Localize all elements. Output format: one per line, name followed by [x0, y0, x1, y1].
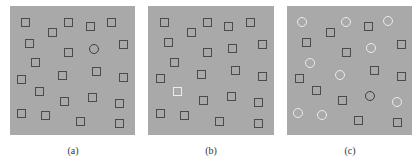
- light-square-icon: [173, 87, 182, 96]
- dark-square-icon: [48, 28, 57, 37]
- dark-square-icon: [60, 97, 69, 106]
- dark-square-icon: [41, 111, 50, 120]
- dark-square-icon: [370, 66, 379, 75]
- light-circle-icon: [305, 58, 315, 68]
- dark-square-icon: [115, 99, 124, 108]
- panel-a: [10, 6, 135, 135]
- dark-square-icon: [31, 58, 40, 67]
- dark-square-icon: [231, 66, 240, 75]
- dark-square-icon: [224, 22, 233, 31]
- light-circle-icon: [297, 17, 307, 27]
- light-circle-icon: [392, 97, 402, 107]
- dark-square-icon: [246, 18, 255, 27]
- light-circle-icon: [383, 16, 393, 26]
- dark-square-icon: [25, 39, 34, 48]
- panel-b: [148, 6, 274, 135]
- dark-square-icon: [86, 22, 95, 31]
- dark-square-icon: [258, 40, 267, 49]
- light-circle-icon: [341, 17, 351, 27]
- light-circle-icon: [366, 43, 376, 53]
- dark-square-icon: [170, 58, 179, 67]
- dark-square-icon: [227, 92, 236, 101]
- dark-square-icon: [326, 28, 335, 37]
- light-circle-icon: [317, 110, 327, 120]
- panel-c: [287, 6, 412, 135]
- light-circle-icon: [293, 108, 303, 118]
- dark-square-icon: [187, 28, 196, 37]
- dark-square-icon: [64, 18, 73, 27]
- dark-square-icon: [92, 67, 101, 76]
- dark-square-icon: [156, 109, 165, 118]
- dark-square-icon: [258, 72, 267, 81]
- dark-square-icon: [115, 119, 124, 128]
- dark-square-icon: [160, 18, 169, 27]
- dark-square-icon: [119, 73, 128, 82]
- dark-square-icon: [17, 109, 26, 118]
- dark-square-icon: [35, 87, 44, 96]
- light-circle-icon: [335, 70, 345, 80]
- dark-square-icon: [199, 96, 208, 105]
- dark-square-icon: [164, 38, 173, 47]
- dark-circle-icon: [365, 91, 375, 101]
- dark-square-icon: [338, 96, 347, 105]
- dark-square-icon: [228, 44, 237, 53]
- dark-square-icon: [17, 75, 26, 84]
- panel-label-c: (c): [330, 145, 370, 156]
- dark-square-icon: [21, 18, 30, 27]
- panel-label-a: (a): [53, 145, 93, 156]
- dark-square-icon: [156, 74, 165, 83]
- dark-square-icon: [354, 116, 363, 125]
- dark-circle-icon: [89, 44, 99, 54]
- dark-square-icon: [302, 38, 311, 47]
- dark-square-icon: [254, 119, 263, 128]
- dark-square-icon: [197, 70, 206, 79]
- dark-square-icon: [58, 71, 67, 80]
- dark-square-icon: [203, 48, 212, 57]
- dark-square-icon: [215, 117, 224, 126]
- dark-square-icon: [295, 74, 304, 83]
- dark-square-icon: [254, 98, 263, 107]
- dark-square-icon: [364, 22, 373, 31]
- dark-square-icon: [180, 111, 189, 120]
- dark-square-icon: [119, 40, 128, 49]
- dark-square-icon: [88, 93, 97, 102]
- dark-square-icon: [342, 48, 351, 57]
- dark-square-icon: [312, 86, 321, 95]
- dark-square-icon: [397, 40, 406, 49]
- dark-square-icon: [397, 72, 406, 81]
- dark-square-icon: [203, 18, 212, 27]
- panel-label-b: (b): [191, 145, 231, 156]
- dark-square-icon: [393, 118, 402, 127]
- dark-square-icon: [107, 18, 116, 27]
- dark-square-icon: [76, 117, 85, 126]
- dark-square-icon: [64, 48, 73, 57]
